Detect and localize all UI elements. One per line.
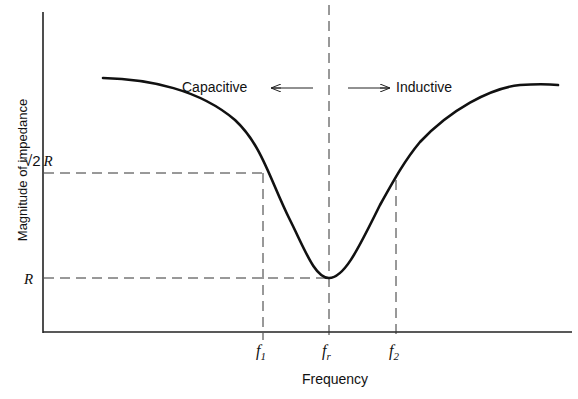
impedance-diagram: Magnitude of impedance √2R R f1 fr f2 Fr… (0, 0, 578, 399)
fr-tick-label: fr (322, 342, 331, 362)
capacitive-label: Capacitive (182, 79, 248, 95)
sqrt2r-tick-label: √2R (24, 152, 53, 169)
inductive-label: Inductive (396, 79, 452, 95)
x-axis-label: Frequency (302, 371, 368, 387)
y-axis-label: Magnitude of impedance (15, 99, 30, 241)
impedance-curve (103, 78, 558, 278)
f2-tick-label: f2 (389, 342, 399, 362)
f1-tick-label: f1 (256, 342, 266, 362)
r-tick-label: R (23, 271, 33, 287)
